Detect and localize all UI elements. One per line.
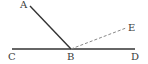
- segment-BA: [30, 6, 71, 49]
- segment-BE-dashed: [71, 28, 126, 49]
- point-label-A: A: [19, 0, 28, 10]
- point-label-D: D: [131, 51, 139, 62]
- point-label-C: C: [8, 51, 16, 62]
- point-label-E: E: [128, 22, 135, 33]
- point-label-B: B: [67, 51, 74, 62]
- geometry-diagram: A C B D E: [0, 0, 148, 64]
